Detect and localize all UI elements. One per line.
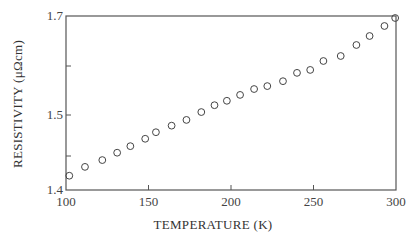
- resistivity-chart: 100150200250300 1.41.51.7 TEMPERATURE (K…: [0, 0, 416, 238]
- data-point-circle: [153, 129, 160, 136]
- data-point-circle: [307, 67, 314, 74]
- data-point-circle: [264, 83, 271, 90]
- data-point-circle: [114, 149, 121, 156]
- data-point-circle: [280, 78, 287, 85]
- data-point-circle: [183, 117, 190, 124]
- x-tick-label: 250: [304, 194, 324, 209]
- y-axis-ticks: 1.41.51.7: [47, 8, 71, 197]
- data-point-circle: [127, 143, 134, 150]
- data-point-circle: [366, 33, 373, 40]
- data-points: [66, 15, 399, 180]
- data-point-circle: [223, 97, 230, 104]
- data-point-circle: [211, 102, 218, 109]
- y-tick-label: 1.5: [47, 107, 63, 122]
- data-point-circle: [251, 86, 258, 93]
- x-tick-label: 150: [139, 194, 159, 209]
- y-tick-label: 1.4: [47, 182, 64, 197]
- data-point-circle: [381, 23, 388, 30]
- data-point-circle: [237, 92, 244, 99]
- x-tick-label: 200: [221, 194, 241, 209]
- y-axis-title: RESISTIVITY (μΩcm): [10, 40, 25, 168]
- plot-frame: [66, 16, 396, 190]
- data-point-circle: [294, 69, 301, 76]
- data-point-circle: [99, 157, 106, 164]
- x-tick-label: 300: [386, 194, 406, 209]
- data-point-circle: [198, 109, 205, 116]
- data-point-circle: [142, 135, 149, 142]
- data-point-circle: [168, 122, 175, 129]
- plot-border: [66, 16, 396, 190]
- data-point-circle: [82, 163, 89, 170]
- x-axis-ticks: 100150200250300: [56, 185, 406, 209]
- data-point-circle: [353, 42, 360, 49]
- data-point-circle: [337, 53, 344, 60]
- data-point-circle: [66, 172, 73, 179]
- x-axis-title: TEMPERATURE (K): [154, 217, 273, 232]
- y-tick-label: 1.7: [47, 8, 64, 23]
- data-point-circle: [320, 58, 327, 65]
